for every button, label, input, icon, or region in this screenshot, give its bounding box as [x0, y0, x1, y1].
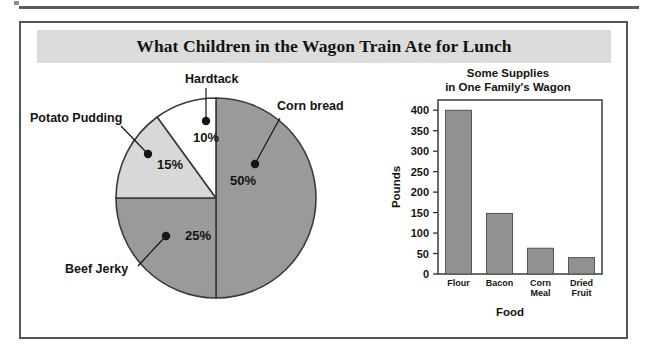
pie-slice-beef-jerky[interactable] [116, 198, 216, 298]
bar-corn-meal[interactable] [528, 248, 554, 274]
category-label: Meal [530, 288, 550, 298]
pie-value-potato-pudding: 15% [157, 157, 183, 172]
bar-chart-title-line2: in One Family's Wagon [445, 81, 571, 93]
pie-value-hardtack: 10% [193, 130, 219, 145]
y-tick-label: 150 [411, 207, 429, 219]
top-horizontal-rule [19, 6, 639, 9]
bar-chart-svg: Some Supplies in One Family's Wagon 0501… [382, 62, 614, 320]
category-label: Dried [570, 278, 593, 288]
pie-chart-svg: Corn bread 50% Hardtack 10% Potato Puddi… [28, 70, 378, 320]
y-tick-label: 400 [411, 104, 429, 116]
pie-value-corn-bread: 50% [230, 173, 256, 188]
pie-value-beef-jerky: 25% [185, 228, 211, 243]
bar-flour[interactable] [446, 110, 472, 274]
pie-label-potato-pudding: Potato Pudding [30, 111, 122, 125]
category-label: Bacon [486, 278, 514, 288]
pie-dot-corn-bread [251, 160, 259, 168]
pie-label-hardtack: Hardtack [185, 72, 239, 86]
y-axis-title: Pounds [390, 166, 402, 208]
pie-label-corn-bread: Corn bread [277, 99, 344, 113]
y-tick-label: 350 [411, 125, 429, 137]
bar-bacon[interactable] [487, 213, 513, 274]
pie-label-beef-jerky: Beef Jerky [65, 262, 128, 276]
y-tick-label: 0 [423, 268, 429, 280]
category-label: Flour [447, 278, 470, 288]
x-axis-category-labels: FlourBaconCornMealDriedFruit [447, 278, 593, 298]
y-tick-label: 100 [411, 227, 429, 239]
category-label: Fruit [572, 288, 592, 298]
y-tick-label: 300 [411, 145, 429, 157]
y-axis-ticks: 050100150200250300350400 [411, 104, 438, 280]
pie-dot-hardtack [202, 117, 210, 125]
pie-dot-potato-pudding [144, 150, 152, 158]
y-tick-label: 250 [411, 166, 429, 178]
y-tick-label: 50 [417, 248, 429, 260]
pie-dot-beef-jerky [162, 232, 170, 240]
x-axis-title: Food [496, 306, 524, 318]
bar-chart: Some Supplies in One Family's Wagon 0501… [382, 62, 614, 320]
bar-chart-title-line1: Some Supplies [467, 67, 549, 79]
bar-dried-fruit[interactable] [569, 258, 595, 274]
y-tick-label: 200 [411, 186, 429, 198]
pie-chart: Corn bread 50% Hardtack 10% Potato Puddi… [28, 70, 378, 320]
pie-slice-corn-bread[interactable] [216, 98, 316, 298]
page-corner-tick [14, 1, 19, 5]
figure-title: What Children in the Wagon Train Ate for… [37, 30, 611, 63]
category-label: Corn [530, 278, 551, 288]
